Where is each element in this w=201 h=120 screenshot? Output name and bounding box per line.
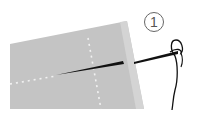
- step-number: 1: [144, 12, 164, 32]
- thread: [170, 40, 182, 110]
- needle-shaft: [134, 51, 178, 64]
- sewing-illustration: [0, 0, 201, 120]
- thread-tail: [181, 53, 183, 67]
